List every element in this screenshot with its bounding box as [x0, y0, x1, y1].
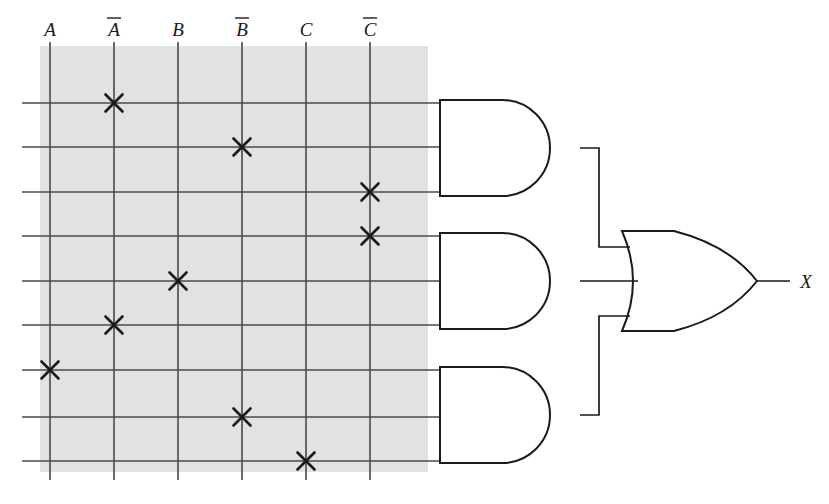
and-gate-2[interactable]	[440, 233, 550, 329]
pla-circuit-diagram: AABBCCX	[0, 0, 829, 504]
input-label-col-notc: C	[364, 19, 377, 40]
circuit-canvas: AABBCCX	[0, 0, 829, 504]
input-label-col-b: B	[172, 19, 184, 40]
input-label-col-c: C	[300, 19, 313, 40]
and-gate-3[interactable]	[440, 367, 550, 463]
or-gate[interactable]	[622, 231, 757, 331]
input-label-col-a: A	[42, 19, 56, 40]
output-label-x: X	[799, 271, 813, 292]
and-gate-1[interactable]	[440, 100, 550, 196]
input-label-col-notb: B	[236, 19, 248, 40]
input-label-col-nota: A	[106, 19, 120, 40]
